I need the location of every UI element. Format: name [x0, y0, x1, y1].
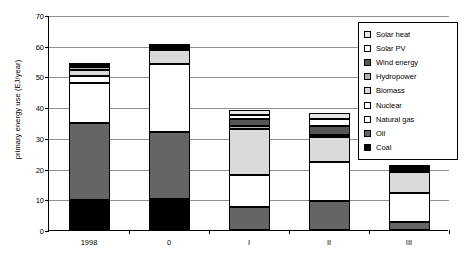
bar-segment-solar-heat: [309, 113, 350, 119]
legend-label: Biomass: [376, 86, 405, 95]
bar-segment-oil: [149, 132, 190, 200]
legend-swatch-icon: [364, 130, 371, 137]
bar-III: [389, 166, 430, 231]
bar-segment-solar-heat: [389, 165, 430, 167]
bar-segment-wind-energy: [389, 168, 430, 170]
bar-segment-solar-heat: [149, 44, 190, 46]
x-axis-tick-label: 1998: [81, 238, 98, 247]
x-axis-tick: [449, 230, 450, 234]
bar-segment-biomass: [149, 50, 190, 64]
legend-label: Natural gas: [376, 115, 414, 124]
bar-segment-oil: [389, 222, 430, 230]
bar-segment-hydropower: [229, 126, 270, 130]
legend-swatch-icon: [364, 59, 371, 66]
bar-segment-solar-pv: [229, 115, 270, 119]
legend-swatch-icon: [364, 87, 371, 94]
legend-swatch-icon: [364, 45, 371, 52]
legend-item: Biomass: [364, 84, 453, 98]
bar-segment-natural-gas: [229, 175, 270, 207]
gridline: [49, 16, 449, 17]
bar-segment-oil: [309, 201, 350, 230]
legend-swatch-icon: [364, 116, 371, 123]
legend-label: Wind energy: [376, 58, 418, 67]
x-axis-tick-label: I: [248, 238, 250, 247]
y-axis-tick-label: 20: [36, 165, 44, 174]
chart-legend: Solar heatSolar PVWind energyHydropowerB…: [358, 22, 458, 160]
bar-segment-solar-heat: [69, 63, 110, 65]
y-axis-tick: [45, 170, 49, 171]
y-axis-tick: [45, 139, 49, 140]
bar-segment-natural-gas: [149, 64, 190, 132]
legend-item: Solar heat: [364, 27, 453, 41]
y-axis-tick: [45, 77, 49, 78]
bar-segment-natural-gas: [309, 162, 350, 200]
legend-label: Hydropower: [376, 72, 416, 81]
legend-swatch-icon: [364, 102, 371, 109]
bar-segment-biomass: [309, 137, 350, 162]
y-axis-tick: [45, 47, 49, 48]
bar-segment-biomass: [69, 70, 110, 76]
legend-label: Coal: [376, 143, 391, 152]
legend-swatch-icon: [364, 144, 371, 151]
bar-1998: [69, 64, 110, 230]
bar-segment-natural-gas: [389, 193, 430, 222]
legend-item: Coal: [364, 141, 453, 155]
bar-segment-coal: [69, 200, 110, 230]
bar-segment-natural-gas: [69, 83, 110, 123]
bar-segment-coal: [149, 199, 190, 230]
legend-item: Oil: [364, 126, 453, 140]
legend-label: Solar heat: [376, 30, 410, 39]
y-axis-tick-label: 70: [36, 12, 44, 21]
bar-segment-wind-energy: [309, 126, 350, 136]
bar-segment-hydropower: [309, 135, 350, 137]
y-axis-title: primary energy use (EJ/year): [13, 30, 22, 190]
bar-segment-biomass: [389, 172, 430, 194]
x-axis-tick-label: 0: [167, 238, 171, 247]
bar-II: [309, 113, 350, 230]
bar-segment-biomass: [229, 129, 270, 174]
legend-swatch-icon: [364, 31, 371, 38]
y-axis-tick-label: 40: [36, 104, 44, 113]
x-axis-tick-label: II: [327, 238, 331, 247]
legend-item: Solar PV: [364, 41, 453, 55]
bar-segment-oil: [69, 123, 110, 200]
y-axis-tick-label: 50: [36, 73, 44, 82]
legend-item: Natural gas: [364, 112, 453, 126]
legend-item: Nuclear: [364, 98, 453, 112]
x-axis-tick-label: III: [406, 238, 412, 247]
x-axis-tick: [289, 230, 290, 234]
legend-label: Oil: [376, 129, 385, 138]
y-axis-tick-label: 10: [36, 196, 44, 205]
y-axis-tick: [45, 108, 49, 109]
bar-segment-oil: [229, 207, 270, 230]
y-axis-tick: [45, 16, 49, 17]
bar-segment-hydropower: [69, 67, 110, 70]
legend-item: Wind energy: [364, 55, 453, 69]
bar-segment-solar-pv: [309, 119, 350, 125]
stacked-bar-chart: primary energy use (EJ/year) 01020304050…: [0, 0, 464, 266]
bar-I: [229, 110, 270, 230]
bar-segment-wind-energy: [229, 119, 270, 125]
x-axis-tick: [209, 230, 210, 234]
y-axis-tick-label: 60: [36, 42, 44, 51]
bar-segment-nuclear: [69, 76, 110, 83]
y-axis-tick: [45, 231, 49, 232]
y-axis-tick: [45, 200, 49, 201]
x-axis-tick: [369, 230, 370, 234]
y-axis-tick-label: 30: [36, 134, 44, 143]
bar-segment-solar-heat: [229, 110, 270, 115]
legend-label: Nuclear: [376, 101, 402, 110]
legend-label: Solar PV: [376, 44, 406, 53]
y-axis-tick-label: 0: [40, 227, 44, 236]
legend-swatch-icon: [364, 73, 371, 80]
legend-item: Hydropower: [364, 70, 453, 84]
bar-0: [149, 46, 190, 230]
x-axis-tick: [129, 230, 130, 234]
